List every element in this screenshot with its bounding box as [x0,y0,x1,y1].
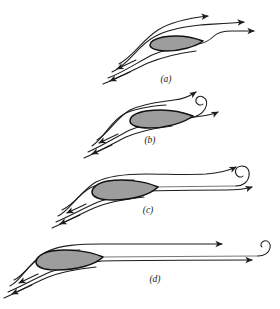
panel-label-a: (a) [160,74,171,85]
panel-label-c: (c) [143,205,154,216]
panel-label-b: (b) [144,135,155,146]
panel-label-d: (d) [149,274,160,285]
starting-vortex-figure: (a) (b) [0,0,280,309]
